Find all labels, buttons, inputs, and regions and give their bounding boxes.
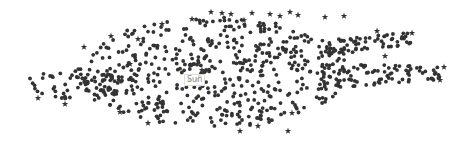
star-dot (404, 68, 408, 72)
star-dot (262, 23, 266, 27)
star-dot (175, 52, 179, 56)
star-dot (259, 27, 263, 31)
star-dot (260, 87, 264, 91)
star-dot (146, 30, 150, 34)
star-dot (165, 109, 169, 113)
star-dot (406, 32, 410, 36)
star-dot (104, 75, 108, 79)
star-dot (300, 77, 304, 81)
star-dot (384, 80, 388, 84)
star-dot (106, 87, 110, 91)
star-dot (265, 51, 269, 55)
star-dot (120, 75, 124, 79)
star-dot (347, 77, 351, 81)
star-dot (278, 88, 282, 92)
star-dot (297, 111, 301, 115)
star-dot (152, 23, 156, 27)
star-dot (256, 46, 260, 50)
star-dot (210, 120, 214, 124)
star-dot (320, 77, 324, 81)
star-dot (320, 101, 324, 105)
star-dot (253, 59, 257, 63)
star-dot (138, 62, 142, 66)
star-dot (157, 95, 161, 99)
star-dot (270, 118, 274, 122)
star-dot (152, 30, 156, 34)
star-dot (225, 109, 229, 113)
star-dot (279, 113, 283, 117)
star-dot (66, 89, 70, 93)
star-dot (40, 92, 44, 96)
star-dot (230, 114, 234, 118)
star-dot (316, 71, 320, 75)
star-dot (293, 61, 297, 65)
star-dot (95, 93, 99, 97)
star-dot (239, 94, 243, 98)
star-dot (42, 72, 46, 76)
star-dot (136, 85, 140, 89)
star-dot (50, 74, 54, 78)
star-dot (301, 83, 305, 87)
star-dot (327, 66, 331, 70)
star-dot (349, 38, 353, 42)
star-dot (70, 73, 74, 77)
star-dot (241, 66, 245, 70)
star-dot (209, 116, 213, 120)
star-dot (101, 90, 105, 94)
star-dot (383, 34, 387, 38)
star-dot (262, 60, 266, 64)
star-dot (318, 82, 322, 86)
star-dot (137, 68, 141, 72)
star-dot (401, 31, 405, 35)
star-icon (135, 36, 141, 42)
star-dot (291, 30, 295, 34)
star-icon (81, 44, 87, 50)
star-icon (249, 10, 255, 16)
star-dot (99, 46, 103, 50)
star-dot (108, 103, 112, 107)
star-dot (257, 116, 261, 120)
star-dot (269, 106, 273, 110)
star-dot (155, 102, 159, 106)
star-dot (409, 67, 413, 71)
star-dot (123, 32, 127, 36)
star-dot (196, 94, 200, 98)
star-dot (269, 61, 273, 65)
star-dot (438, 75, 442, 79)
star-dot (396, 44, 400, 48)
star-dot (139, 115, 143, 119)
star-dot (336, 80, 340, 84)
star-dot (198, 19, 202, 23)
star-dot (103, 85, 107, 89)
star-dot (225, 34, 229, 38)
star-dot (383, 70, 387, 74)
star-dot (275, 30, 279, 34)
star-dot (246, 68, 250, 72)
star-dot (232, 37, 236, 41)
star-dot (117, 63, 121, 67)
star-dot (154, 84, 158, 88)
star-dot (95, 86, 99, 90)
star-dot (245, 79, 249, 83)
star-dot (235, 20, 239, 24)
star-dot (224, 81, 228, 85)
star-dot (282, 47, 286, 51)
star-dot (192, 100, 196, 104)
star-dot (390, 77, 394, 81)
star-dot (210, 39, 214, 43)
star-dot (159, 101, 163, 105)
star-dot (86, 73, 90, 77)
star-dot (122, 66, 126, 70)
star-dot (113, 69, 117, 73)
star-dot (232, 46, 236, 50)
star-dot (266, 90, 270, 94)
star-dot (389, 45, 393, 49)
star-dot (345, 43, 349, 47)
star-dot (41, 76, 45, 80)
star-dot (263, 27, 267, 31)
star-dot (341, 65, 345, 69)
star-dot (238, 121, 242, 125)
star-dot (58, 72, 62, 76)
star-dot (267, 84, 271, 88)
star-dot (339, 39, 343, 43)
